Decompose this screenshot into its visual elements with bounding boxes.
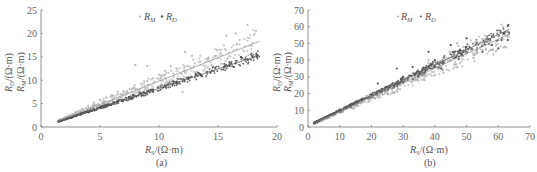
- svg-text:50: 50: [294, 38, 304, 49]
- legend-marker-rm-icon: [139, 16, 141, 18]
- legend-label-rm: RM: [400, 11, 413, 23]
- y-axis-label-inner-a: RM/(Ω·m): [15, 52, 27, 93]
- svg-text:20: 20: [27, 28, 37, 39]
- ticks-a: 051015200510152025: [27, 5, 282, 143]
- svg-text:10: 10: [335, 131, 345, 142]
- svg-text:50: 50: [462, 131, 472, 142]
- svg-text:5: 5: [98, 131, 103, 142]
- svg-text:30: 30: [294, 71, 304, 82]
- svg-text:20: 20: [294, 88, 304, 99]
- scatter-points-b: [313, 24, 510, 126]
- svg-text:15: 15: [213, 131, 223, 142]
- svg-text:10: 10: [27, 75, 37, 86]
- svg-text:0: 0: [39, 131, 44, 142]
- svg-text:10: 10: [154, 131, 164, 142]
- chart-b: 010203040506070010203040506070 RM RD RD/…: [271, 5, 535, 170]
- svg-text:RD/(Ω·m): RD/(Ω·m): [3, 53, 15, 93]
- svg-text:20: 20: [272, 131, 282, 142]
- chart-a: 051015200510152025 RM RD RD/(Ω·m) RM/(Ω·…: [3, 5, 282, 170]
- svg-text:10: 10: [294, 105, 304, 116]
- y-axis-label-inner-b: RM/(Ω·m): [282, 52, 294, 93]
- legend-label-rd: RD: [165, 11, 177, 23]
- svg-text:20: 20: [366, 131, 376, 142]
- legend-b: RM RD: [397, 11, 436, 23]
- svg-text:40: 40: [430, 131, 440, 142]
- svg-text:15: 15: [27, 51, 37, 62]
- svg-text:0: 0: [306, 131, 311, 142]
- legend-marker-rm-icon: [397, 16, 399, 18]
- trend-lines-a: [59, 41, 260, 121]
- svg-text:70: 70: [294, 5, 304, 16]
- svg-text:30: 30: [398, 131, 408, 142]
- x-axis-label-b: RS/(Ω·m): [409, 144, 448, 156]
- svg-text:0: 0: [32, 122, 37, 133]
- svg-text:0: 0: [299, 122, 304, 133]
- svg-text:RM/(Ω·m): RM/(Ω·m): [15, 52, 27, 93]
- svg-text:25: 25: [27, 5, 37, 16]
- trend-lines-b: [314, 29, 509, 123]
- legend-a: RM RD: [139, 11, 177, 23]
- svg-text:60: 60: [294, 21, 304, 32]
- svg-text:70: 70: [525, 131, 535, 142]
- x-axis-label-a: RS/(Ω·m): [144, 144, 183, 156]
- figure: 051015200510152025 RM RD RD/(Ω·m) RM/(Ω·…: [0, 0, 537, 172]
- svg-text:5: 5: [32, 98, 37, 109]
- y-axis-label-outer-a: RD/(Ω·m): [3, 53, 15, 93]
- legend-marker-rd-icon: [161, 15, 163, 17]
- legend-label-rd: RD: [424, 11, 436, 23]
- panel-label-a: (a): [156, 157, 167, 169]
- svg-text:RM/(Ω·m): RM/(Ω·m): [282, 52, 294, 93]
- svg-text:40: 40: [294, 55, 304, 66]
- panel-label-b: (b): [424, 157, 436, 169]
- legend-label-rm: RM: [143, 11, 156, 23]
- legend-marker-rd-icon: [420, 16, 422, 18]
- svg-text:60: 60: [493, 131, 503, 142]
- scatter-points-a: [58, 24, 260, 123]
